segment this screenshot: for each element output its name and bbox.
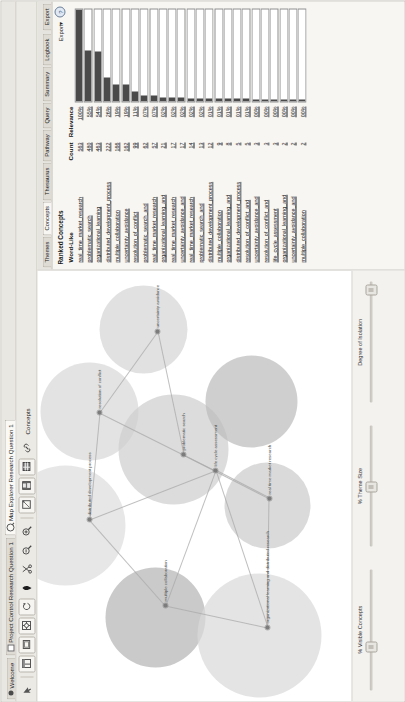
cell-word[interactable]: problematic_search_and	[139, 168, 148, 264]
theme-bubble[interactable]	[37, 465, 125, 585]
table-row[interactable]: uncertainty_avoidance16219%	[120, 6, 129, 264]
cell-word[interactable]: multiple_collaboration	[111, 168, 120, 264]
cell-word[interactable]: distributed_development_process	[102, 168, 111, 264]
table-row[interactable]: real_time_market_research1402%	[186, 6, 195, 264]
theme-bubble[interactable]	[197, 573, 321, 697]
slider-knob[interactable]	[365, 481, 377, 492]
table-row[interactable]: uncertainty_avoidance_and300%	[251, 6, 260, 264]
zoom-out-icon[interactable]	[18, 541, 35, 558]
slider-knob[interactable]	[365, 641, 377, 652]
panel-tab-logbook[interactable]: Logbook	[42, 33, 51, 65]
map-node[interactable]	[97, 410, 101, 414]
window-tab-project-control[interactable]: Project Control Research Question 1	[5, 537, 15, 656]
panel-tab-concepts[interactable]: Concepts	[42, 201, 51, 236]
map-node[interactable]	[163, 603, 167, 607]
slider-track[interactable]	[365, 569, 375, 690]
cell-word[interactable]: life_cycle_assessment	[269, 168, 278, 264]
table-row[interactable]: life_cycle_assessment300%	[269, 6, 278, 264]
refresh-icon[interactable]	[18, 598, 35, 615]
table-row[interactable]: problematic_search_and1302%	[195, 6, 204, 264]
window-tab-welcome[interactable]: Welcome	[6, 657, 15, 699]
cell-word[interactable]: real_time_market_research	[74, 168, 83, 264]
table-row[interactable]: uncertainty_avoidance_and1702%	[176, 6, 185, 264]
table-row[interactable]: resolution_of_conflict_and300%	[260, 6, 269, 264]
cell-word[interactable]: uncertainty_avoidance	[120, 168, 129, 264]
slider-theme-size[interactable]: % Theme Size	[352, 414, 375, 558]
cell-word[interactable]: resolution_of_conflict_and	[260, 168, 269, 264]
table-row[interactable]: resolution_of_conflict_and501%	[241, 6, 250, 264]
diamond-icon[interactable]	[18, 579, 35, 596]
cell-word[interactable]: real_time_market_research	[148, 168, 157, 264]
table-row[interactable]: resolution_of_conflict9911%	[130, 6, 139, 264]
column-header-relevance[interactable]: Relevance	[66, 104, 74, 140]
zoom-in-icon[interactable]	[18, 522, 35, 539]
cell-word[interactable]: multiple_collaboration	[213, 168, 222, 264]
cell-word[interactable]: resolution_of_conflict	[130, 168, 139, 264]
table-icon[interactable]	[18, 458, 35, 475]
panel-tab-thesaurus[interactable]: Thesaurus	[42, 162, 51, 199]
concept-map-canvas[interactable]: distributed development processresolutio…	[37, 270, 404, 701]
slider-track[interactable]	[365, 425, 375, 546]
panel-tab-themes[interactable]: Themes	[42, 236, 51, 267]
cell-word[interactable]: multiple_collaboration	[297, 168, 306, 264]
panel-tab-pathway[interactable]: Pathway	[42, 129, 51, 161]
map-node[interactable]	[155, 329, 159, 333]
column-header-count[interactable]: Count	[66, 140, 74, 168]
slider-track[interactable]	[365, 281, 375, 402]
cell-word[interactable]: problematic_search	[83, 168, 92, 264]
cell-word[interactable]: uncertainty_avoidance_and	[288, 168, 297, 264]
panel-tab-export[interactable]: Export	[42, 3, 51, 30]
scissors-icon[interactable]	[18, 560, 35, 577]
table-row[interactable]: distributed_development_process22226%	[102, 6, 111, 264]
crop-icon[interactable]	[18, 496, 35, 513]
cursor-icon[interactable]	[18, 681, 35, 698]
map-node[interactable]	[265, 625, 269, 629]
panel-tab-summary[interactable]: Summary	[42, 66, 51, 101]
map-node[interactable]	[213, 468, 217, 472]
table-row[interactable]: uncertainty_avoidance_and200%	[288, 6, 297, 264]
cell-word[interactable]: organizational_learning_and	[158, 168, 167, 264]
panel-tab-query[interactable]: Query	[42, 102, 51, 128]
map-node[interactable]	[87, 517, 91, 521]
window-layout-icon[interactable]	[18, 655, 35, 672]
table-row[interactable]: multiple_collaboration200%	[297, 6, 306, 264]
table-row[interactable]: multiple_collaboration901%	[213, 6, 222, 264]
cell-word[interactable]: problematic_search_and	[195, 168, 204, 264]
export-menu-button[interactable]: Export▾	[57, 21, 63, 41]
table-row[interactable]: problematic_search_and6207%	[139, 6, 148, 264]
image-icon[interactable]	[18, 636, 35, 653]
map-node[interactable]	[181, 452, 185, 456]
table-row[interactable]: organizational_learning46354%	[93, 6, 102, 264]
table-row[interactable]: problematic_search48055%	[83, 6, 92, 264]
save-icon[interactable]	[18, 477, 35, 494]
table-row[interactable]: organizational_learning_and200%	[279, 6, 288, 264]
cell-word[interactable]: distributed_development_process	[232, 168, 241, 264]
link-icon[interactable]	[18, 439, 35, 456]
table-row[interactable]: distributed_development_process1201%	[204, 6, 213, 264]
cell-word[interactable]: organizational_learning_and	[279, 168, 288, 264]
cell-word[interactable]: real_time_market_research	[167, 168, 176, 264]
slider-knob[interactable]	[365, 284, 377, 295]
table-row[interactable]: real_time_market_research563100%	[74, 6, 83, 264]
slider-degree-of-isolation[interactable]: Degree of Isolation	[352, 270, 375, 414]
ranked-concepts-table-wrap[interactable]: Word-Like Count Relevance real_time_mark…	[66, 1, 404, 269]
theme-bubble[interactable]	[205, 355, 297, 447]
slider-visible-concepts[interactable]: % Visible Concepts	[352, 557, 375, 701]
cell-word[interactable]: uncertainty_avoidance_and	[251, 168, 260, 264]
cell-word[interactable]: organizational_learning_and	[223, 168, 232, 264]
theme-bubble[interactable]	[105, 567, 205, 667]
table-row[interactable]: organizational_learning_and801%	[223, 6, 232, 264]
cell-word[interactable]: resolution_of_conflict_and	[241, 168, 250, 264]
theme-bubble[interactable]	[99, 285, 187, 373]
target-icon[interactable]	[18, 617, 35, 634]
table-row[interactable]: multiple_collaboration16619%	[111, 6, 120, 264]
cell-word[interactable]: uncertainty_avoidance_and	[176, 168, 185, 264]
cell-word[interactable]: organizational_learning	[93, 168, 102, 264]
map-node[interactable]	[267, 496, 271, 500]
column-header-word[interactable]: Word-Like	[66, 168, 74, 264]
concept-map-panel[interactable]: distributed development processresolutio…	[37, 269, 404, 701]
table-row[interactable]: real_time_market_research1702%	[167, 6, 176, 264]
cell-word[interactable]: distributed_development_process	[204, 168, 213, 264]
table-row[interactable]: organizational_learning_and2102%	[158, 6, 167, 264]
help-icon[interactable]: ?	[54, 6, 65, 17]
